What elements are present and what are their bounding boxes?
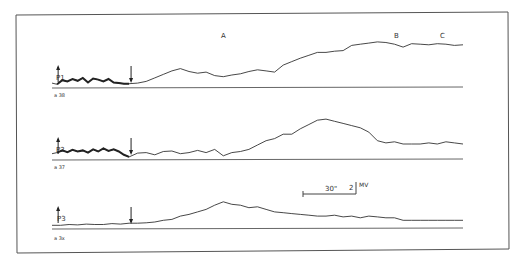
trace-panel-p1: P1 a 38 <box>52 42 463 98</box>
stimulus-off-arrow-icon <box>129 66 133 83</box>
trace-line-p1 <box>52 42 463 84</box>
stimulus-off-arrow-icon <box>129 138 133 155</box>
scale-bar-amplitude-unit: MV <box>359 181 369 188</box>
section-label-c: C <box>440 32 445 40</box>
trace-tag: a 37 <box>54 164 65 170</box>
trace-stimulus-segment-p2 <box>57 148 129 157</box>
trace-tag: a 3x <box>54 235 65 241</box>
trace-panel-p3: P3 a 3x <box>52 202 463 241</box>
trace-stimulus-segment-p1 <box>57 78 129 84</box>
trace-tag: a 38 <box>54 92 65 98</box>
section-label-b: B <box>394 32 399 40</box>
figure-frame <box>16 12 509 253</box>
trace-baseline <box>52 159 463 160</box>
section-label-a: A <box>221 32 226 40</box>
scale-bar-time-label: 30" <box>325 185 337 193</box>
chart-figure: A B C P1 a 38 P2 a 37 P3 a 3x <box>0 0 526 265</box>
trace-line-p2 <box>52 119 463 157</box>
trace-baseline <box>52 87 463 88</box>
trace-line-p3 <box>52 202 463 226</box>
trace-panel-p2: P2 a 37 <box>52 119 463 170</box>
trace-baseline <box>52 228 463 229</box>
stimulus-off-arrow-icon <box>129 207 133 224</box>
scale-bar: 30" 2 MV <box>303 181 369 197</box>
scale-bar-amplitude-value: 2 <box>349 184 353 192</box>
